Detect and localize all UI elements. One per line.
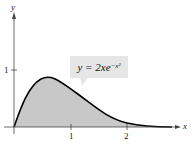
- x-tick-label-2: 2: [124, 132, 129, 141]
- x-axis-arrow-icon: [175, 125, 181, 129]
- x-axis-label: x: [183, 122, 187, 131]
- x-tick-label-1: 1: [69, 132, 74, 141]
- callout-pointer: [80, 77, 88, 86]
- equation-callout: y = 2xe−x²: [70, 56, 128, 78]
- equation-main: y = 2xe: [77, 61, 110, 73]
- equation-exponent: −x²: [111, 62, 121, 70]
- y-axis-arrow-icon: [12, 12, 16, 19]
- shaded-area: [14, 77, 172, 127]
- y-tick-label-1: 1: [4, 66, 9, 75]
- y-axis-label: y: [11, 3, 15, 12]
